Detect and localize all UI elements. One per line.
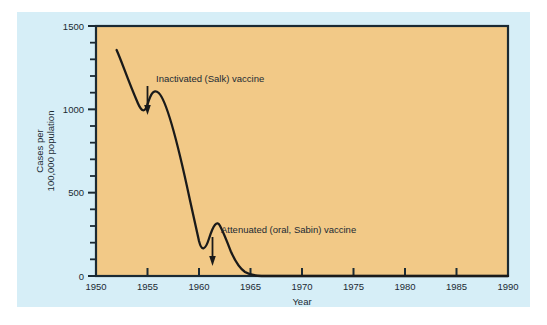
- annotation-salk-label: Inactivated (Salk) vaccine: [156, 73, 264, 84]
- figure-container: 1500 1000 500 0 Cases per 100,000 popula…: [0, 0, 547, 325]
- x-tick-label-1965: 1965: [240, 281, 261, 292]
- x-tick-label-1960: 1960: [188, 281, 209, 292]
- y-tick-label-1500: 1500: [63, 21, 84, 32]
- y-tick-label-0: 0: [79, 271, 84, 282]
- y-axis-title: Cases per 100,000 population: [34, 111, 56, 192]
- x-tick-label-1970: 1970: [291, 281, 312, 292]
- y-axis-title-line-1: Cases per: [34, 129, 45, 172]
- x-tick-label-1985: 1985: [446, 281, 467, 292]
- x-tick-label-1955: 1955: [137, 281, 158, 292]
- x-tick-label-1990: 1990: [497, 281, 518, 292]
- annotation-sabin-label: Attenuated (oral, Sabin) vaccine: [221, 224, 356, 235]
- polio-incidence-line-chart: 1500 1000 500 0 Cases per 100,000 popula…: [0, 0, 547, 325]
- x-tick-label-1980: 1980: [394, 281, 415, 292]
- plot-area-background: [96, 26, 508, 276]
- y-axis-title-line-2: 100,000 population: [45, 111, 56, 192]
- x-tick-label-1950: 1950: [85, 281, 106, 292]
- y-tick-label-500: 500: [68, 187, 84, 198]
- y-tick-label-1000: 1000: [63, 104, 84, 115]
- x-axis-title: Year: [292, 296, 311, 307]
- x-tick-label-1975: 1975: [343, 281, 364, 292]
- y-axis-major-ticks: [88, 26, 96, 276]
